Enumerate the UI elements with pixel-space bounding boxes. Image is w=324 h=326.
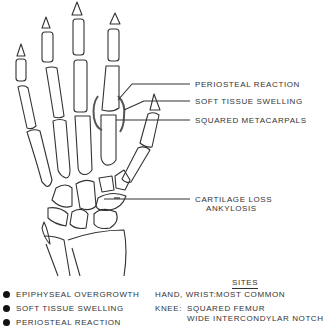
index-proximal-phalanx bbox=[102, 66, 119, 111]
sites-row-knee-key: KNEE: bbox=[155, 304, 182, 313]
little-middle-phalanx bbox=[16, 59, 26, 81]
label-periosteal-reaction: PERIOSTEAL REACTION bbox=[195, 80, 300, 89]
thumb-distal-phalanx bbox=[150, 94, 160, 110]
leader-periosteal bbox=[118, 84, 190, 100]
middle-distal-phalanx bbox=[72, 2, 82, 15]
legend-item-periosteal-reaction: PERIOSTEAL REACTION bbox=[3, 318, 121, 326]
thumb-proximal-phalanx bbox=[140, 113, 159, 147]
triquetrum bbox=[48, 208, 68, 226]
ring-distal-phalanx bbox=[42, 17, 50, 28]
scaphoid-lower bbox=[94, 209, 117, 228]
sites-row-knee-value-2: WIDE INTERCONDYLAR NOTCH bbox=[187, 314, 324, 323]
middle-metacarpal bbox=[75, 116, 92, 175]
sites-row-knee-value: SQUARED FEMUR bbox=[187, 304, 265, 313]
sites-heading: SITES bbox=[232, 278, 258, 289]
index-distal-phalanx bbox=[110, 13, 120, 24]
label-cartilage-loss: CARTILAGE LOSS bbox=[195, 195, 272, 204]
middle-proximal-phalanx bbox=[74, 60, 87, 112]
label-ankylosis: ANKYLOSIS bbox=[206, 204, 257, 213]
sites-row-hand-key: HAND, WRIST: bbox=[155, 290, 216, 299]
lunate bbox=[70, 209, 88, 228]
scaphoid bbox=[96, 193, 126, 210]
legend-item-soft-tissue-swelling: SOFT TISSUE SWELLING bbox=[3, 304, 124, 313]
ring-middle-phalanx bbox=[42, 32, 53, 62]
index-metacarpal bbox=[101, 115, 116, 165]
little-distal-phalanx bbox=[17, 44, 25, 56]
legend-label: EPIPHYSEAL OVERGROWTH bbox=[16, 290, 139, 299]
legend-item-epiphyseal-overgrowth: EPIPHYSEAL OVERGROWTH bbox=[3, 290, 139, 299]
legend-label: SOFT TISSUE SWELLING bbox=[16, 304, 124, 313]
index-middle-phalanx bbox=[108, 29, 119, 61]
ring-proximal-phalanx bbox=[46, 67, 64, 118]
trapezoid bbox=[99, 176, 114, 192]
bullet-icon bbox=[3, 291, 10, 298]
bullet-icon bbox=[3, 319, 10, 326]
hamate bbox=[52, 185, 72, 207]
little-proximal-phalanx bbox=[18, 86, 36, 129]
sites-row-hand-value: MOST COMMON bbox=[216, 290, 285, 299]
thumb-metacarpal bbox=[122, 147, 150, 183]
label-squared-metacarpals: SQUARED METACARPALS bbox=[195, 116, 307, 125]
bullet-icon bbox=[3, 305, 10, 312]
little-metacarpal bbox=[27, 130, 52, 187]
pisiform bbox=[42, 222, 50, 244]
legend-label: PERIOSTEAL REACTION bbox=[16, 318, 121, 326]
label-soft-tissue-swelling: SOFT TISSUE SWELLING bbox=[195, 97, 303, 106]
ring-metacarpal bbox=[53, 120, 70, 179]
radius bbox=[68, 230, 126, 276]
capitate bbox=[76, 180, 96, 209]
middle-middle-phalanx bbox=[73, 19, 84, 55]
